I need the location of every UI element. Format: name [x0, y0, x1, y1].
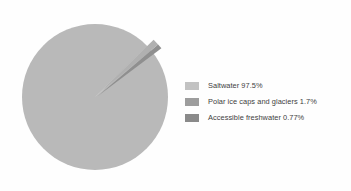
legend-swatch-saltwater — [185, 82, 199, 90]
pie-chart-figure: Saltwater 97.5% Polar ice caps and glaci… — [0, 0, 351, 191]
legend-label-accessible-freshwater: Accessible freshwater 0.77% — [208, 113, 304, 123]
legend-label-saltwater: Saltwater 97.5% — [208, 81, 263, 91]
legend-item-polar-ice[interactable]: Polar ice caps and glaciers 1.7% — [185, 94, 351, 110]
legend-swatch-polar-ice — [185, 98, 199, 106]
legend-swatch-freshwater — [185, 114, 199, 122]
chart-legend: Saltwater 97.5% Polar ice caps and glaci… — [185, 78, 351, 126]
legend-label-polar-ice: Polar ice caps and glaciers 1.7% — [208, 97, 317, 107]
legend-item-saltwater[interactable]: Saltwater 97.5% — [185, 78, 351, 94]
legend-item-accessible-freshwater[interactable]: Accessible freshwater 0.77% — [185, 110, 351, 126]
